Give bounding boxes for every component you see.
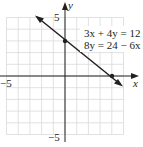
equation-1: 3x + 4y = 12 xyxy=(84,27,140,39)
y-tick-neg5: −5 xyxy=(48,131,60,143)
y-intercept-point xyxy=(63,39,67,43)
x-axis-label: x xyxy=(132,77,138,89)
y-axis-label: y xyxy=(67,0,73,11)
x-intercept-point xyxy=(110,74,114,78)
x-tick-neg5: −5 xyxy=(0,77,12,89)
y-axis xyxy=(62,2,68,142)
coordinate-plane: y x 5 −5 −5 3x + 4y = 12 8y = 24 − 6x xyxy=(0,0,143,147)
equation-2: 8y = 24 − 6x xyxy=(84,39,141,51)
x-axis xyxy=(0,73,139,79)
y-tick-5: 5 xyxy=(54,11,60,23)
